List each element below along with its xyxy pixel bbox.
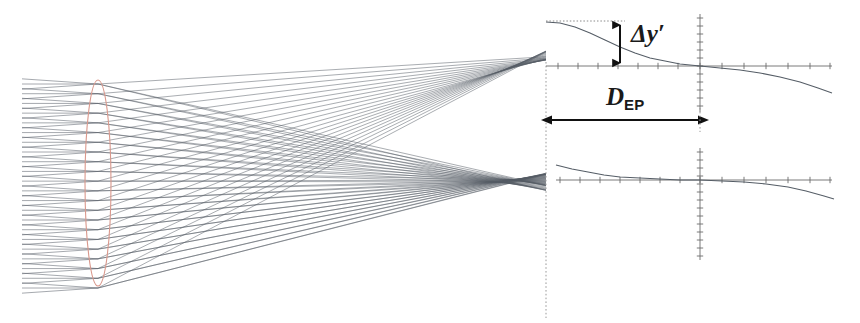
ray-bundle-group (22, 51, 546, 293)
upper-aberration-curve (546, 22, 832, 93)
lens-element (85, 80, 111, 286)
optical-ray-trace-figure: Δy′ DEP (0, 0, 860, 323)
d-ep-label: DEP (606, 83, 644, 113)
upper-aberration-plot (546, 14, 832, 112)
ray-diagram-canvas (0, 0, 860, 323)
lower-aberration-curve (556, 165, 834, 199)
lower-aberration-plot (556, 148, 834, 260)
delta-y-prime-label: Δy′ (631, 20, 665, 48)
